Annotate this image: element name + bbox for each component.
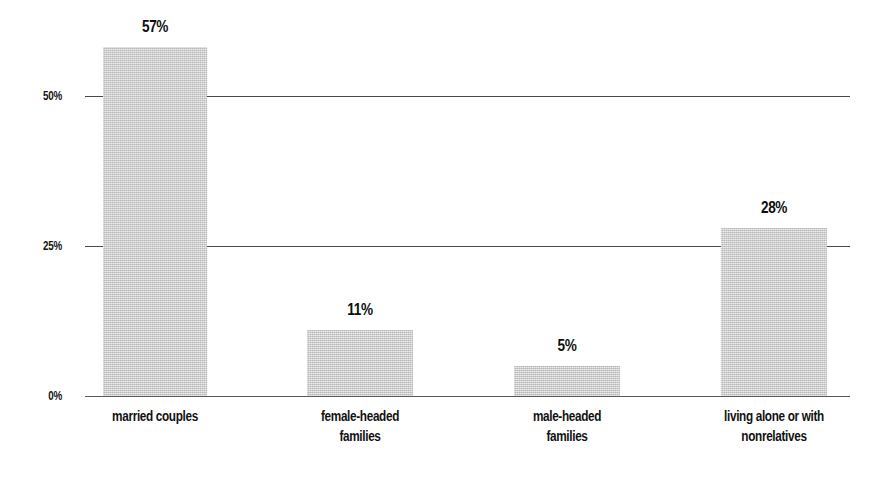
bar-female-headed-families [307, 330, 413, 396]
y-tick-0: 0% [0, 389, 62, 403]
value-label-female-headed-families: 11% [318, 300, 403, 320]
y-tick-25: 25% [0, 239, 62, 253]
category-label-line-1: living alone or with [698, 406, 849, 426]
y-tick-0-label: 0% [24, 389, 62, 403]
bar-male-headed-families [514, 366, 620, 396]
category-label-living-alone-or-nonrelatives: living alone or with nonrelatives [698, 406, 849, 446]
value-label-male-headed-families: 5% [525, 336, 610, 356]
category-label-line-2: families [293, 426, 427, 446]
bar-chart: 50% 25% 0% 57% 11% 5% 28% married couple… [0, 0, 895, 489]
category-label-line-2: families [500, 426, 634, 446]
y-tick-50-label: 50% [24, 89, 62, 103]
category-label-line-1: male-headed [500, 406, 634, 426]
category-label-married-couples: married couples [88, 406, 222, 426]
category-label-line-1: female-headed [293, 406, 427, 426]
category-label-line-2: nonrelatives [698, 426, 849, 446]
category-label-line-1: married couples [88, 406, 222, 426]
y-tick-50: 50% [0, 89, 62, 103]
category-label-male-headed-families: male-headed families [500, 406, 634, 446]
plot-area: 50% 25% 0% 57% 11% 5% 28% married couple… [0, 0, 895, 489]
value-label-married-couples: 57% [113, 17, 196, 37]
category-label-female-headed-families: female-headed families [293, 406, 427, 446]
y-tick-25-label: 25% [24, 239, 62, 253]
value-label-living-alone-or-nonrelatives: 28% [732, 198, 817, 218]
axis-baseline-0 [85, 396, 850, 397]
bar-living-alone-or-nonrelatives [721, 228, 827, 396]
bar-married-couples [103, 47, 207, 396]
